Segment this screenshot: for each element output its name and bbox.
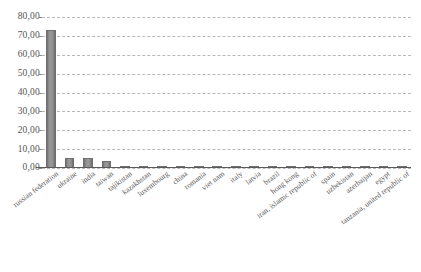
x-axis-tick-label: ukraine [55, 170, 78, 190]
x-axis-labels: russian federationukraineindiataiwantaji… [42, 168, 411, 272]
x-axis-tick-label: italy [229, 170, 245, 185]
gridline [42, 93, 411, 94]
y-axis-tick-label: 40,00 [0, 88, 40, 98]
gridline [42, 111, 411, 112]
gridline [42, 55, 411, 56]
gridline [42, 36, 411, 37]
x-axis-tick-label: latvia [245, 170, 264, 187]
y-axis-tick-label: 80,00 [0, 12, 40, 22]
gridline [42, 130, 411, 131]
y-axis-tick-label: 20,00 [0, 126, 40, 136]
y-axis-tick-label: 0,00 [0, 163, 40, 173]
y-axis-tick-label: 10,00 [0, 145, 40, 155]
bar-chart: 0,0010,0020,0030,0040,0050,0060,0070,008… [0, 0, 421, 272]
plot-area [42, 17, 411, 168]
y-axis-tick-label: 50,00 [0, 69, 40, 79]
bar[interactable] [46, 30, 56, 168]
y-axis-tick-label: 60,00 [0, 50, 40, 60]
gridline [42, 149, 411, 150]
y-axis: 0,0010,0020,0030,0040,0050,0060,0070,008… [0, 17, 40, 168]
y-axis-tick-label: 70,00 [0, 31, 40, 41]
gridline [42, 74, 411, 75]
x-axis-tick-label: russian federation [12, 170, 60, 209]
gridline [42, 17, 411, 18]
y-axis-tick-label: 30,00 [0, 107, 40, 117]
